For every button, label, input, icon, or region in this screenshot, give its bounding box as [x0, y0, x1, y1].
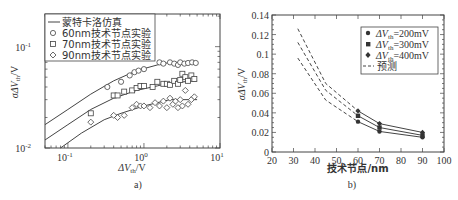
- data-point: [164, 105, 170, 111]
- data-point: [377, 129, 381, 133]
- x-tick-label: 10-1: [57, 151, 73, 163]
- prediction-curve: [298, 58, 358, 122]
- x-tick-label: 80: [396, 155, 406, 166]
- data-point: [160, 98, 166, 104]
- y-tick-label: 0.12: [252, 30, 270, 41]
- filled-square-marker-icon: [366, 42, 370, 46]
- data-point: [141, 83, 146, 88]
- data-point: [129, 105, 135, 111]
- data-point: [356, 114, 360, 118]
- chart-a-xlabel: ΔVth/V: [117, 162, 146, 175]
- y-tick-label: 0.08: [252, 69, 270, 80]
- chart-b-ylabel: σΔVth/V: [236, 67, 249, 100]
- data-point: [141, 67, 146, 72]
- chart-a-ylabel: σΔVth/V: [9, 65, 22, 98]
- data-point: [185, 101, 191, 107]
- y-tick-label: 0: [264, 147, 269, 158]
- chart-b-legend: ΔVth=200mV ΔVth=300mV ΔVth=400mV 预测: [361, 27, 438, 74]
- x-tick-label: 30: [289, 155, 299, 166]
- data-point: [155, 79, 160, 84]
- figure: 10-110010110-210-1 蒙特卡洛仿真 60nm技术节点实验 70n…: [0, 0, 458, 200]
- x-tick-label: 100: [437, 155, 452, 166]
- chart-b-xlabel: 技术节点/nm: [327, 162, 388, 174]
- y-tick-label: 0.04: [252, 108, 270, 119]
- x-tick-label: 40: [310, 155, 320, 166]
- legend-a-2: 70nm技术节点实验: [62, 38, 151, 50]
- y-tick-label: 0.06: [252, 88, 270, 99]
- chart-a-points: [88, 60, 199, 125]
- data-point: [182, 87, 188, 93]
- data-point: [115, 93, 120, 98]
- legend-a-1: 60nm技术节点实验: [62, 27, 151, 39]
- y-tick-label: 10-1: [15, 41, 31, 53]
- data-point: [150, 84, 155, 89]
- data-point: [88, 111, 93, 116]
- data-point: [122, 89, 127, 94]
- y-tick-label: 0.1: [257, 49, 270, 60]
- chart-a-panel-label: a): [134, 179, 142, 191]
- data-point: [147, 105, 153, 111]
- filled-circle-marker-icon: [366, 31, 370, 35]
- data-point: [127, 73, 132, 78]
- legend-a-0: 蒙特卡洛仿真: [62, 16, 122, 28]
- chart-b-panel-label: b): [348, 179, 356, 191]
- y-tick-label: 10-2: [15, 142, 31, 154]
- data-point: [88, 119, 94, 125]
- x-tick-label: 90: [418, 155, 428, 166]
- data-point: [105, 84, 110, 89]
- chart-a-legend: 蒙特卡洛仿真 60nm技术节点实验 70nm技术节点实验 90nm技术节点实验: [45, 14, 155, 61]
- data-point: [193, 60, 198, 65]
- prediction-curve: [298, 42, 358, 115]
- data-point: [186, 78, 191, 83]
- data-point: [118, 79, 123, 84]
- legend-a-3: 90nm技术节点实验: [62, 49, 151, 61]
- legend-b-3: 预测: [377, 60, 397, 72]
- x-tick-label: 101: [210, 151, 224, 163]
- simulation-curve: [45, 81, 197, 140]
- y-tick-label: 0.14: [252, 10, 270, 21]
- chart-a: 10-110010110-210-1 蒙特卡洛仿真 60nm技术节点实验 70n…: [9, 14, 224, 191]
- chart-b: 203040506070809010000.020.040.060.080.10…: [236, 10, 452, 191]
- data-point: [178, 77, 183, 82]
- y-tick-label: 0.02: [252, 127, 270, 138]
- prediction-curve: [298, 29, 358, 111]
- data-point: [161, 61, 166, 66]
- data-point: [192, 76, 197, 81]
- data-point: [136, 68, 141, 73]
